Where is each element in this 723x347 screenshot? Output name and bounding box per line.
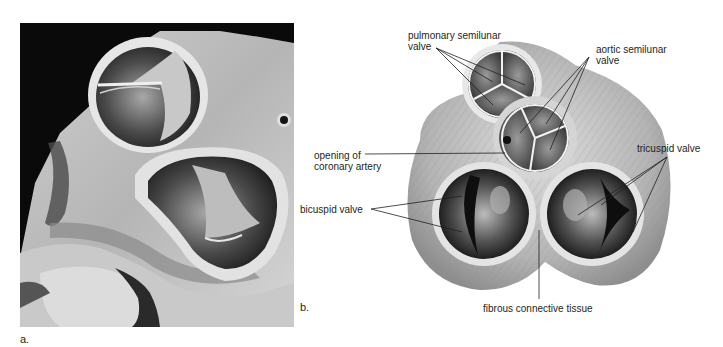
label-line: pulmonary semilunar bbox=[408, 30, 501, 41]
label-pulmonary-semilunar-valve: pulmonary semilunar valve bbox=[408, 30, 501, 52]
label-bicuspid-valve: bicuspid valve bbox=[300, 204, 363, 215]
label-line: aortic semilunar bbox=[596, 44, 667, 55]
label-aortic-semilunar-valve: aortic semilunar valve bbox=[596, 44, 667, 66]
panel-label-b: b. bbox=[300, 301, 309, 313]
label-opening-of-coronary-artery: opening of coronary artery bbox=[314, 150, 381, 172]
heart-valves-photograph bbox=[20, 23, 294, 327]
label-line: valve bbox=[596, 55, 667, 66]
panel-label-a: a. bbox=[20, 333, 29, 345]
label-line: coronary artery bbox=[314, 161, 381, 172]
label-tricuspid-valve: tricuspid valve bbox=[637, 143, 700, 154]
heart-valves-illustration bbox=[370, 0, 723, 347]
label-line: opening of bbox=[314, 150, 381, 161]
photo-graphic bbox=[20, 23, 294, 327]
label-fibrous-connective-tissue: fibrous connective tissue bbox=[483, 303, 593, 314]
label-line: valve bbox=[408, 41, 501, 52]
illustration-graphic bbox=[370, 0, 723, 347]
